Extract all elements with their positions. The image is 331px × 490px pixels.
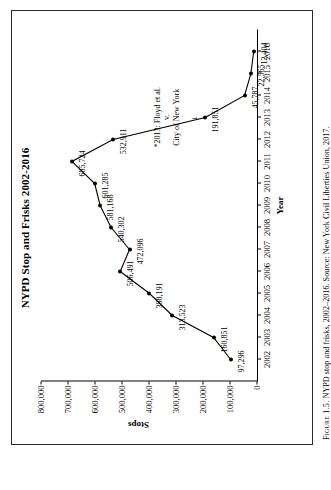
data-point-marker [252, 49, 256, 53]
data-point-marker [70, 159, 74, 163]
data-point-label: 540,302 [117, 216, 126, 242]
chart: NYPD Stop and Frisks 2002-2016 Stops Yea… [13, 12, 313, 443]
x-tick-label: 2011 [262, 153, 272, 170]
caption-label: Figure 1.5. [322, 401, 331, 440]
data-point-label: 472,096 [136, 238, 145, 264]
chart-rotation-wrapper: NYPD Stop and Frisks 2002-2016 Stops Yea… [12, 11, 314, 444]
x-tick-mark [258, 50, 261, 51]
x-tick-mark [258, 248, 261, 249]
x-axis-title: Year [275, 29, 285, 381]
y-tick-label: 300,000 [171, 385, 181, 413]
x-tick-mark [258, 116, 261, 117]
y-tick-label: 800,000 [36, 385, 46, 413]
x-tick-mark [258, 160, 261, 161]
y-tick-mark [176, 381, 177, 384]
annotation-arrow-icon: ↓ [189, 116, 199, 121]
x-tick-label: 2016 [262, 43, 272, 60]
x-tick-mark [258, 314, 261, 315]
y-tick-label: 700,000 [63, 385, 73, 413]
data-point-marker [118, 269, 122, 273]
y-tick-label: 0 [252, 385, 262, 389]
x-tick-mark [258, 72, 261, 73]
x-tick-mark [258, 138, 261, 139]
x-tick-label: 2010 [262, 175, 272, 192]
data-point-label: 398,191 [155, 282, 164, 308]
x-tick-label: 2008 [262, 219, 272, 236]
data-point-label: 685,724 [78, 150, 87, 176]
data-point-label: 97,296 [237, 350, 246, 372]
x-tick-label: 2006 [262, 263, 272, 280]
data-point-marker [170, 313, 174, 317]
figure-caption: Figure 1.5. NYPD stop and frisks, 2002–2… [322, 10, 331, 440]
y-tick-mark [203, 381, 204, 384]
x-tick-label: 2015 [262, 65, 272, 82]
x-tick-label: 2012 [262, 131, 272, 148]
annotation-line-2: v. [162, 87, 171, 147]
figure-frame: NYPD Stop and Frisks 2002-2016 Stops Yea… [11, 10, 313, 445]
data-point-marker [212, 335, 216, 339]
data-point-label: 191,851 [211, 106, 220, 132]
chart-rotated: NYPD Stop and Frisks 2002-2016 Stops Yea… [13, 12, 313, 443]
x-tick-label: 2002 [262, 351, 272, 368]
data-point-label: 506,491 [126, 260, 135, 286]
data-point-marker [249, 71, 253, 75]
y-tick-label: 600,000 [90, 385, 100, 413]
annotation-line-3: City of New York [172, 87, 181, 147]
x-tick-mark [258, 292, 261, 293]
y-tick-mark [230, 381, 231, 384]
x-tick-label: 2005 [262, 285, 272, 302]
y-tick-mark [68, 381, 69, 384]
x-tick-mark [258, 94, 261, 95]
data-point-marker [147, 291, 151, 295]
y-tick-label: 100,000 [225, 385, 235, 413]
x-tick-mark [258, 336, 261, 337]
x-tick-mark [258, 270, 261, 271]
data-point-label: 601,285 [101, 172, 110, 198]
y-tick-label: 500,000 [117, 385, 127, 413]
plot-area: 0100,000200,000300,000400,000500,000600,… [41, 29, 257, 381]
y-tick-label: 400,000 [144, 385, 154, 413]
chart-title: NYPD Stop and Frisks 2002-2016 [19, 12, 31, 443]
x-tick-label: 2013 [262, 109, 272, 126]
x-axis-ticks: 2002200320042005200620072008200920102011… [258, 29, 276, 381]
data-point-marker [243, 93, 247, 97]
data-point-marker [111, 137, 115, 141]
x-tick-label: 2014 [262, 87, 272, 104]
data-point-marker [203, 115, 207, 119]
y-axis-title: Stops [128, 419, 149, 429]
y-tick-mark [149, 381, 150, 384]
y-tick-mark [122, 381, 123, 384]
data-point-marker [93, 181, 97, 185]
floyd-case-annotation: *2013: Floyd et al. v. City of New York [153, 87, 181, 147]
x-tick-label: 2009 [262, 197, 272, 214]
x-tick-label: 2004 [262, 307, 272, 324]
x-tick-mark [258, 226, 261, 227]
x-tick-mark [258, 182, 261, 183]
data-point-label: 313,523 [178, 304, 187, 330]
y-tick-label: 200,000 [198, 385, 208, 413]
y-tick-mark [95, 381, 96, 384]
x-tick-label: 2007 [262, 241, 272, 258]
data-point-marker [109, 225, 113, 229]
data-point-marker [98, 203, 102, 207]
data-point-label: 532,911 [119, 128, 128, 154]
data-point-marker [128, 247, 132, 251]
data-point-label: 160,851 [220, 326, 229, 352]
x-tick-mark [258, 358, 261, 359]
data-point-marker [229, 357, 233, 361]
annotation-line-1: *2013: Floyd et al. [153, 87, 162, 147]
caption-text: NYPD stop and frisks, 2002–2016. Source:… [322, 127, 331, 401]
x-tick-mark [258, 204, 261, 205]
y-tick-mark [41, 381, 42, 384]
x-tick-label: 2003 [262, 329, 272, 346]
